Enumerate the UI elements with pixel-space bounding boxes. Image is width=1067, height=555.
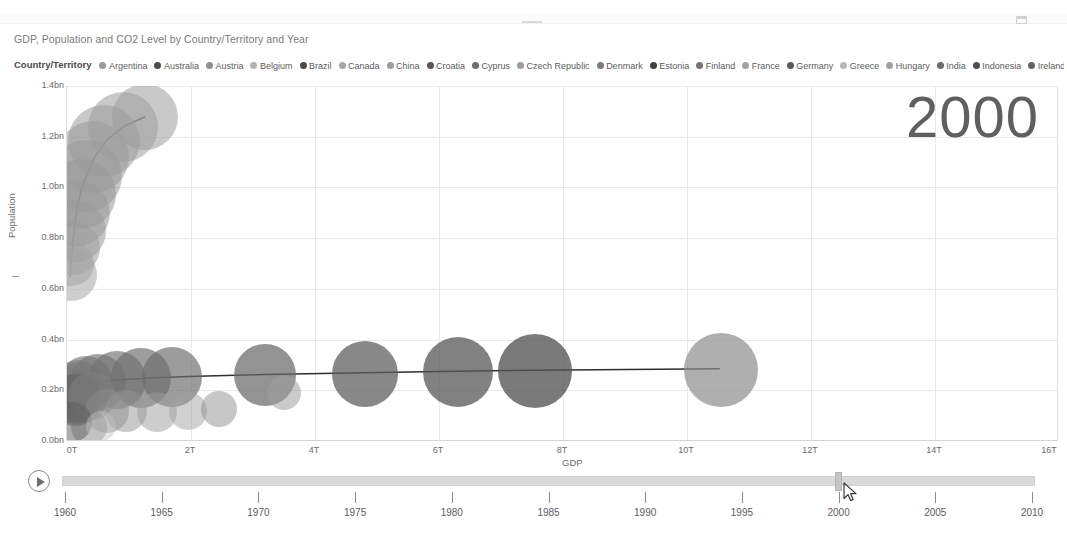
- y-axis-dash: [12, 276, 19, 277]
- legend-item[interactable]: Croatia: [427, 61, 466, 71]
- timeline-slider-track[interactable]: [62, 476, 1035, 486]
- legend-item-label: Austria: [215, 61, 243, 71]
- timeline-tick-label: 1965: [151, 507, 173, 518]
- legend-item-label: Cyprus: [482, 61, 511, 71]
- y-axis-tick-label: 0.8bn: [41, 232, 64, 242]
- y-axis-tick-label: 0.2bn: [41, 384, 64, 394]
- vertical-gridline: [811, 86, 812, 440]
- legend-item-label: China: [396, 61, 420, 71]
- y-axis-tick-label: 1.0bn: [41, 181, 64, 191]
- page-title: GDP, Population and CO2 Level by Country…: [14, 33, 309, 45]
- legend-item[interactable]: Argentina: [99, 61, 147, 71]
- data-bubble[interactable]: [332, 341, 398, 407]
- legend-item-label: Finland: [706, 61, 736, 71]
- horizontal-gridline: [67, 340, 1057, 341]
- y-axis-tick-label: 0.0bn: [41, 435, 64, 445]
- legend-color-dot: [696, 62, 703, 69]
- data-bubble[interactable]: [201, 391, 237, 427]
- legend-item[interactable]: Finland: [696, 61, 735, 71]
- legend-item-label: France: [752, 61, 780, 71]
- data-bubble[interactable]: [86, 411, 116, 441]
- legend-item[interactable]: Australia: [154, 61, 199, 71]
- data-bubble[interactable]: [498, 334, 572, 408]
- play-icon: [37, 477, 45, 487]
- legend-item-label: Denmark: [606, 61, 643, 71]
- timeline-tick-label: 1985: [537, 507, 559, 518]
- legend-item-label: Brazil: [309, 61, 332, 71]
- legend-item[interactable]: Greece: [840, 61, 879, 71]
- timeline-tick: [65, 492, 66, 503]
- timeline-tick-label: 2000: [827, 507, 849, 518]
- legend-item[interactable]: Germany: [787, 61, 834, 71]
- legend-color-dot: [1028, 62, 1035, 69]
- data-bubble[interactable]: [267, 376, 301, 410]
- legend-color-dot: [154, 62, 161, 69]
- legend-color-dot: [787, 62, 794, 69]
- legend-item-label: Germany: [796, 61, 833, 71]
- legend-color-dot: [597, 62, 604, 69]
- legend-item[interactable]: Brazil: [300, 61, 332, 71]
- legend-color-dot: [206, 62, 213, 69]
- y-axis-tick-label: 1.4bn: [41, 80, 64, 90]
- x-axis-tick-label: 8T: [557, 445, 568, 455]
- legend-item-label: Indonesia: [982, 61, 1021, 71]
- timeline-tick: [549, 492, 550, 503]
- timeline-tick-label: 1980: [441, 507, 463, 518]
- horizontal-gridline: [67, 187, 1057, 188]
- timeline-tick: [452, 492, 453, 503]
- timeline-tick: [1032, 492, 1033, 503]
- vertical-gridline: [315, 86, 316, 440]
- timeline-slider-thumb[interactable]: [835, 472, 842, 491]
- legend-color-dot: [387, 62, 394, 69]
- timeline-tick: [258, 492, 259, 503]
- data-bubble[interactable]: [684, 333, 758, 407]
- x-axis-tick-label: 12T: [802, 445, 818, 455]
- legend-item[interactable]: India: [937, 61, 966, 71]
- legend-item-label: Argentina: [109, 61, 148, 71]
- legend-items: ArgentinaAustraliaAustriaBelgiumBrazilCa…: [99, 56, 1064, 72]
- play-button[interactable]: [28, 470, 50, 492]
- timeline-tick: [839, 492, 840, 503]
- x-axis-tick-label: 6T: [433, 445, 444, 455]
- timeline-tick-label: 1990: [634, 507, 656, 518]
- legend-item[interactable]: Cyprus: [472, 61, 510, 71]
- legend-item-label: Hungary: [896, 61, 930, 71]
- legend-color-dot: [840, 62, 847, 69]
- legend-item[interactable]: Ireland: [1028, 61, 1064, 71]
- horizontal-gridline: [67, 238, 1057, 239]
- legend-item[interactable]: China: [387, 61, 420, 71]
- mouse-cursor: [843, 482, 859, 504]
- legend-item[interactable]: Hungary: [886, 61, 930, 71]
- legend-item[interactable]: Estonia: [650, 61, 690, 71]
- legend-color-dot: [937, 62, 944, 69]
- x-axis-tick-label: 14T: [926, 445, 942, 455]
- horizontal-gridline: [67, 289, 1057, 290]
- x-axis-tick-label: 16T: [1041, 445, 1057, 455]
- legend-title: Country/Territory: [14, 59, 91, 70]
- legend-color-dot: [250, 62, 257, 69]
- y-axis-tick-label: 0.4bn: [41, 334, 64, 344]
- timeline-tick-label: 1960: [54, 507, 76, 518]
- data-bubble[interactable]: [112, 86, 178, 150]
- legend-item[interactable]: France: [742, 61, 780, 71]
- legend-color-dot: [742, 62, 749, 69]
- legend-item-label: India: [946, 61, 966, 71]
- data-bubble[interactable]: [423, 337, 493, 407]
- window-restore-icon[interactable]: [1016, 16, 1027, 24]
- x-axis-tick-label: 4T: [309, 445, 320, 455]
- timeline-tick-label: 2005: [924, 507, 946, 518]
- legend: Country/Territory ArgentinaAustraliaAust…: [14, 56, 1064, 72]
- legend-item[interactable]: Denmark: [597, 61, 643, 71]
- legend-item[interactable]: Canada: [339, 61, 380, 71]
- legend-item-label: Croatia: [436, 61, 465, 71]
- legend-item-label: Australia: [164, 61, 199, 71]
- legend-item-label: Belgium: [260, 61, 293, 71]
- legend-item[interactable]: Czech Republic: [517, 61, 590, 71]
- legend-item-label: Czech Republic: [527, 61, 590, 71]
- legend-item[interactable]: Belgium: [250, 61, 292, 71]
- window-minimize-icon[interactable]: [522, 21, 542, 23]
- timeline-tick-label: 1970: [247, 507, 269, 518]
- timeline-tick: [162, 492, 163, 503]
- legend-item[interactable]: Indonesia: [973, 61, 1022, 71]
- legend-item[interactable]: Austria: [206, 61, 244, 71]
